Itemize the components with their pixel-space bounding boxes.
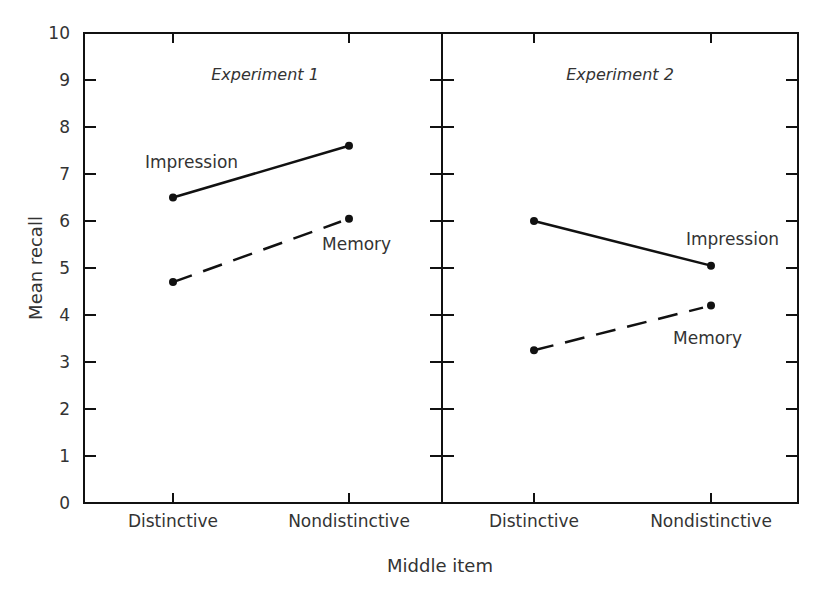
x-axis-title: Middle item (387, 555, 493, 576)
y-tick-label: 6 (59, 211, 70, 231)
panel-title-experiment-1: Experiment 1 (211, 65, 319, 84)
point-marker (707, 302, 715, 310)
point-marker (707, 262, 715, 270)
x-tick-p1-distinctive: Distinctive (128, 511, 218, 531)
y-tick-label: 10 (48, 23, 70, 43)
recall-chart: 012345678910 Experiment 1 Experiment 2 I… (0, 0, 825, 600)
label-p2-memory: Memory (673, 328, 742, 348)
y-tick-label: 0 (59, 493, 70, 513)
y-axis-ticks: 012345678910 (48, 23, 798, 513)
point-marker (530, 346, 538, 354)
y-tick-label: 7 (59, 164, 70, 184)
label-p1-memory: Memory (322, 234, 391, 254)
label-p2-impression: Impression (686, 229, 779, 249)
point-marker (169, 194, 177, 202)
y-tick-label: 9 (59, 70, 70, 90)
point-marker (345, 215, 353, 223)
y-tick-label: 4 (59, 305, 70, 325)
line-impression-exp2 (534, 221, 711, 266)
x-tick-p2-distinctive: Distinctive (489, 511, 579, 531)
y-tick-label: 2 (59, 399, 70, 419)
point-marker (345, 142, 353, 150)
x-tick-p2-nondistinctive: Nondistinctive (650, 511, 772, 531)
x-tick-p1-nondistinctive: Nondistinctive (288, 511, 410, 531)
y-tick-label: 1 (59, 446, 70, 466)
label-p1-impression: Impression (145, 152, 238, 172)
y-tick-label: 8 (59, 117, 70, 137)
line-memory-exp1 (173, 222, 341, 283)
y-tick-label: 3 (59, 352, 70, 372)
point-marker (169, 278, 177, 286)
y-tick-label: 5 (59, 258, 70, 278)
point-marker (530, 217, 538, 225)
panel-title-experiment-2: Experiment 2 (566, 65, 674, 84)
y-axis-title: Mean recall (25, 216, 46, 320)
